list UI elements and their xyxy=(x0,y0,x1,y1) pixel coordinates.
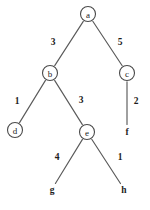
nodes-group: abcdefgh xyxy=(8,7,135,195)
edge-weight-e-h: 1 xyxy=(118,152,123,162)
node-label-b: b xyxy=(48,69,53,79)
edge-a-b xyxy=(55,21,84,65)
edges-group xyxy=(20,21,127,183)
node-label-h: h xyxy=(121,185,127,195)
tree-diagram-canvas: abcdefgh 3513241 xyxy=(0,0,150,210)
tree-diagram-svg: abcdefgh 3513241 xyxy=(0,0,150,210)
edge-weight-a-c: 5 xyxy=(118,37,123,47)
edge-weight-c-f: 2 xyxy=(134,96,139,106)
edge-e-h xyxy=(92,139,121,183)
node-label-f: f xyxy=(125,127,129,137)
edge-e-g xyxy=(55,139,82,183)
node-label-c: c xyxy=(125,69,129,79)
node-label-e: e xyxy=(85,128,89,138)
node-label-g: g xyxy=(50,185,55,195)
edge-weight-b-d: 1 xyxy=(15,96,20,106)
edge-weight-b-e: 3 xyxy=(79,95,84,105)
node-label-a: a xyxy=(86,10,90,20)
edge-weight-e-g: 4 xyxy=(55,152,60,162)
edge-weight-a-b: 3 xyxy=(51,37,56,47)
edge-b-d xyxy=(20,80,46,122)
node-label-d: d xyxy=(13,126,18,136)
